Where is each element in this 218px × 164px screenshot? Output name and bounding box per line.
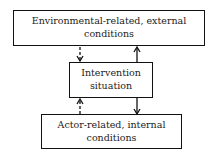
arrows-layer — [0, 0, 218, 164]
